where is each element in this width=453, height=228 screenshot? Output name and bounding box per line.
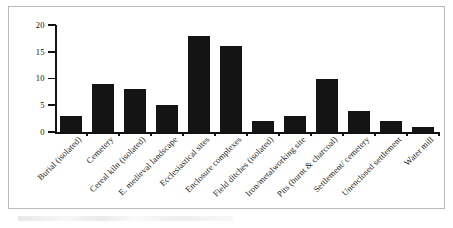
bar [284, 116, 306, 132]
x-axis-label: Unenclosed settlement [340, 135, 403, 198]
y-tick-label: 20 [36, 20, 45, 30]
bar [252, 121, 274, 132]
x-axis-label: E. medieval landscape [117, 135, 179, 197]
bar [124, 89, 146, 132]
bar [348, 111, 370, 132]
x-axis-label: Burial (isolated) [36, 135, 83, 182]
bar [60, 116, 82, 132]
bar [220, 46, 242, 132]
bar [92, 84, 114, 132]
x-axis-label: Pits (burnt & charcoal) [276, 135, 340, 199]
y-tick-label: 15 [36, 47, 45, 57]
x-axis-label: Field ditches (isolated) [212, 135, 275, 198]
bar [188, 36, 210, 132]
x-axis-label: Water mill [403, 135, 435, 167]
y-tick-label: 5 [40, 100, 45, 110]
y-tick-label: 10 [36, 73, 45, 83]
x-axis-category-labels: Burial (isolated)CemeteryCereal kiln (is… [55, 135, 439, 209]
figure-frame: 05101520 Burial (isolated)CemeteryCereal… [8, 6, 445, 209]
bar-chart-plot-area: 05101520 Burial (isolated)CemeteryCereal… [9, 7, 446, 210]
bar [380, 121, 402, 132]
y-tick-label: 0 [40, 127, 45, 137]
x-axis-label: Iron/metalworking site [244, 135, 307, 198]
x-axis-label: Cemetery [85, 135, 115, 165]
bar [412, 127, 434, 132]
caption-smudge [18, 216, 233, 221]
bar [156, 105, 178, 132]
bar [316, 79, 338, 133]
bar-series [55, 25, 439, 132]
